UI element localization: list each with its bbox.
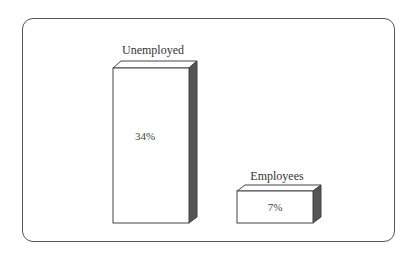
bar-chart: Unemployed 34% Employees 7% xyxy=(0,0,418,256)
bar-label-unemployed: Unemployed xyxy=(122,43,184,57)
bar-value-unemployed: 34% xyxy=(135,130,155,142)
bar-label-employees: Employees xyxy=(250,169,304,183)
bar-unemployed: Unemployed 34% xyxy=(113,43,197,223)
bar-value-employees: 7% xyxy=(268,201,283,213)
bar-employees: Employees 7% xyxy=(237,169,321,223)
